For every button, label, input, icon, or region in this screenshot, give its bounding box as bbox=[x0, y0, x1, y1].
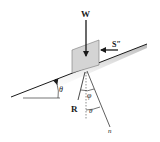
force-s-label: S″ bbox=[112, 40, 121, 49]
free-body-diagram: θ W S″ R n φ θ bbox=[0, 0, 160, 142]
normal-angle-label: θ bbox=[89, 107, 93, 115]
normal-label: n bbox=[108, 127, 112, 135]
weight-label: W bbox=[81, 9, 90, 19]
reaction-label: R bbox=[71, 104, 78, 114]
incline-angle-label: θ bbox=[59, 85, 63, 94]
friction-angle-label: φ bbox=[87, 91, 92, 100]
